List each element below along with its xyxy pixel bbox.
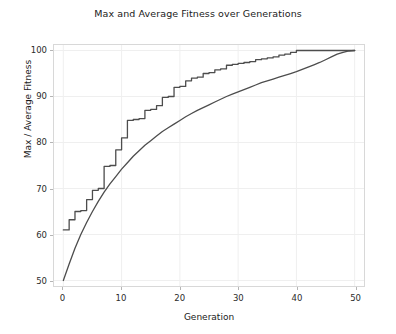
series-lines bbox=[63, 51, 354, 281]
x-tick-label: 20 bbox=[160, 293, 200, 303]
y-tick-label: 50 bbox=[7, 276, 47, 286]
chart-figure: Max and Average Fitness over Generations… bbox=[0, 0, 396, 334]
x-tick-mark bbox=[356, 287, 357, 290]
x-tick-label: 40 bbox=[277, 293, 317, 303]
x-tick-label: 10 bbox=[101, 293, 141, 303]
x-tick-mark bbox=[238, 287, 239, 290]
grid-lines bbox=[54, 45, 364, 286]
chart-title: Max and Average Fitness over Generations bbox=[0, 8, 396, 19]
series-line-1 bbox=[63, 51, 354, 281]
y-tick-label: 60 bbox=[7, 230, 47, 240]
x-tick-mark bbox=[62, 287, 63, 290]
x-tick-mark bbox=[121, 287, 122, 290]
x-tick-label: 30 bbox=[218, 293, 258, 303]
x-tick-mark bbox=[297, 287, 298, 290]
x-tick-label: 50 bbox=[336, 293, 376, 303]
plot-area bbox=[53, 44, 365, 287]
x-axis-label: Generation bbox=[53, 312, 365, 322]
series-line-0 bbox=[63, 51, 354, 230]
plot-svg bbox=[54, 45, 364, 286]
x-tick-mark bbox=[180, 287, 181, 290]
y-axis-label: Max / Average Fitness bbox=[23, 19, 33, 199]
x-tick-label: 0 bbox=[42, 293, 82, 303]
